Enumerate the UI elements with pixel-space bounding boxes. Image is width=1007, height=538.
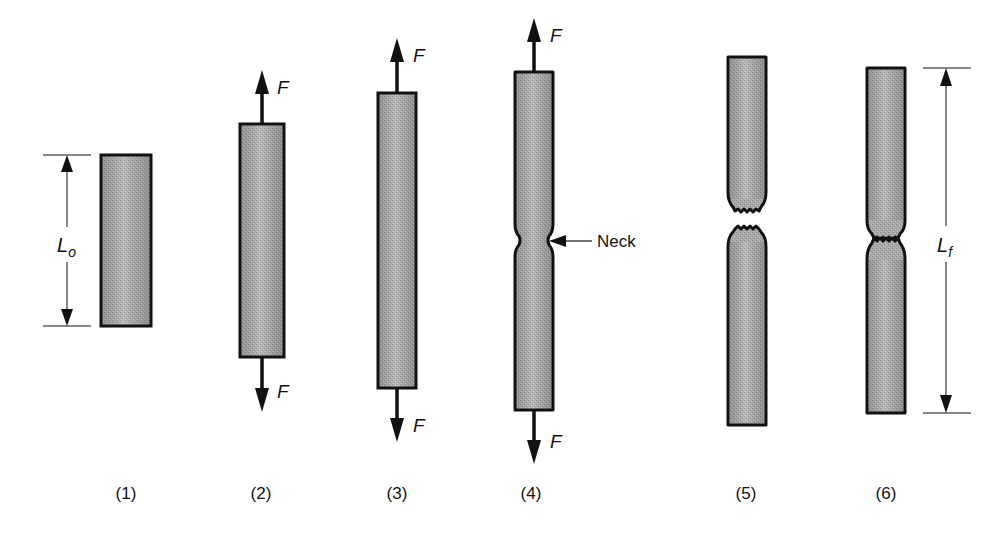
original-length-label: Lo [57, 234, 76, 260]
force-label: F [277, 381, 290, 402]
arrowhead-down-icon [61, 309, 73, 326]
specimen-3: F F [378, 38, 426, 442]
tensile-test-diagram: Lo F F F F [0, 0, 1007, 538]
arrowhead-up-icon [61, 155, 73, 172]
force-label: F [550, 25, 563, 46]
arrow-down-icon [255, 388, 269, 412]
arrow-down-icon [527, 440, 541, 464]
force-arrow-down: F [527, 410, 563, 464]
force-arrow-up: F [390, 38, 426, 93]
final-length-label: Lf [937, 234, 954, 260]
specimen-1: Lo [43, 155, 151, 326]
force-label: F [550, 431, 563, 452]
specimen-6: Lf [867, 68, 971, 413]
force-arrow-down: F [390, 388, 426, 442]
stage-label-1: (1) [116, 484, 137, 503]
stage-label-5: (5) [736, 484, 757, 503]
arrow-up-icon [255, 70, 269, 94]
arrow-left-icon [549, 235, 566, 247]
neck-label: Neck [597, 232, 636, 251]
force-arrow-down: F [255, 357, 290, 412]
force-label: F [413, 45, 426, 66]
stage-label-6: (6) [876, 484, 897, 503]
arrow-up-icon [527, 18, 541, 42]
original-length-dimension: Lo [43, 155, 91, 326]
stage-label-4: (4) [521, 484, 542, 503]
specimen-5 [728, 57, 766, 425]
neck-callout: Neck [549, 232, 636, 251]
final-length-dimension: Lf [923, 68, 971, 413]
arrow-down-icon [390, 418, 404, 442]
specimen-2: F F [240, 70, 290, 412]
stage-label-2: (2) [251, 484, 272, 503]
stage-labels: (1) (2) (3) (4) (5) (6) [116, 484, 897, 503]
arrowhead-down-icon [940, 395, 952, 413]
force-label: F [277, 77, 290, 98]
stage-label-3: (3) [387, 484, 408, 503]
specimen-4: F F Neck [515, 18, 636, 464]
arrowhead-up-icon [940, 68, 952, 86]
arrow-up-icon [390, 38, 404, 62]
force-arrow-up: F [255, 70, 290, 124]
force-arrow-up: F [527, 18, 563, 72]
force-label: F [413, 415, 426, 436]
